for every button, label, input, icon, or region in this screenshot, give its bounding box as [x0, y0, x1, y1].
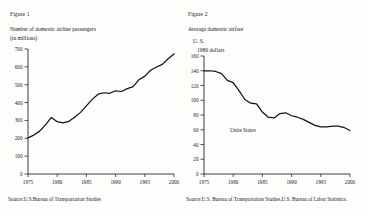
- figure-1-caption-line-1: Number of domestic airline passengers: [10, 26, 96, 32]
- x-tick-label: 1975: [199, 179, 210, 185]
- figure-2-caption-line-1: Average domestic airfare: [188, 26, 243, 32]
- x-tick-label: 1985: [81, 179, 92, 185]
- x-tick-label: 2000: [345, 179, 356, 185]
- y-tick-label: 0: [20, 171, 23, 177]
- y-tick-label: 600: [15, 64, 23, 70]
- scanned-page: Figure 1 Number of domestic airline pass…: [0, 0, 369, 216]
- figure-2-y-ticks: [201, 56, 205, 174]
- y-tick-label: 120: [191, 83, 199, 89]
- figure-2-x-tick-labels: 1975 1980 1985 1990 1995 2000: [199, 179, 356, 185]
- x-tick-label: 1990: [110, 179, 121, 185]
- y-tick-label: 140: [191, 68, 199, 74]
- figure-2-data-line: [204, 71, 350, 131]
- figure-2-series-label: Unite States: [230, 127, 256, 133]
- figure-1-label: Figure 1: [10, 11, 30, 17]
- y-tick-label: 0: [196, 171, 199, 177]
- figure-1-y-ticks: [25, 49, 29, 174]
- x-tick-label: 1995: [316, 179, 327, 185]
- y-tick-label: 60: [193, 127, 199, 133]
- x-tick-label: 1985: [257, 179, 268, 185]
- figure-2-panel: Figure 2 Average domestic airfare U. S. …: [184, 0, 369, 216]
- y-tick-label: 500: [15, 82, 23, 88]
- figure-1-data-line: [28, 54, 174, 138]
- figure-1-chart: 700 600 500 400 300 200 100 0: [4, 43, 180, 191]
- x-tick-label: 1975: [23, 179, 34, 185]
- figure-1-source: Source:U.S.Bureau of Transportation Stud…: [8, 196, 101, 202]
- figure-2-svg: 160 140 120 100 80 60 40 20 0: [178, 50, 360, 192]
- figure-2-label: Figure 2: [188, 11, 208, 17]
- figure-1-caption-line-2: (in millions): [10, 35, 37, 41]
- y-tick-label: 40: [193, 142, 199, 148]
- y-tick-label: 20: [193, 156, 199, 162]
- figure-1-svg: 700 600 500 400 300 200 100 0: [4, 43, 180, 191]
- figure-1-x-tick-labels: 1975 1980 1985 1990 1995 2000: [23, 179, 180, 185]
- y-tick-label: 300: [15, 117, 23, 123]
- y-tick-label: 80: [193, 112, 199, 118]
- figure-1-y-tick-labels: 700 600 500 400 300 200 100 0: [15, 46, 23, 177]
- figure-2-chart: 160 140 120 100 80 60 40 20 0: [178, 50, 360, 192]
- figure-2-caption-line-2: U. S.: [193, 38, 204, 44]
- y-tick-label: 400: [15, 100, 23, 106]
- figure-1-panel: Figure 1 Number of domestic airline pass…: [0, 0, 184, 216]
- figure-2-y-tick-labels: 160 140 120 100 80 60 40 20 0: [191, 53, 199, 177]
- figure-2-source: Source:U.S. Bureau of Transportation Stu…: [186, 196, 347, 202]
- x-tick-label: 1990: [286, 179, 297, 185]
- y-tick-label: 100: [191, 97, 199, 103]
- x-tick-label: 1995: [140, 179, 151, 185]
- y-tick-label: 700: [15, 46, 23, 52]
- y-tick-label: 160: [191, 53, 199, 59]
- y-tick-label: 100: [15, 153, 23, 159]
- x-tick-label: 1980: [52, 179, 63, 185]
- y-tick-label: 200: [15, 135, 23, 141]
- x-tick-label: 1980: [228, 179, 239, 185]
